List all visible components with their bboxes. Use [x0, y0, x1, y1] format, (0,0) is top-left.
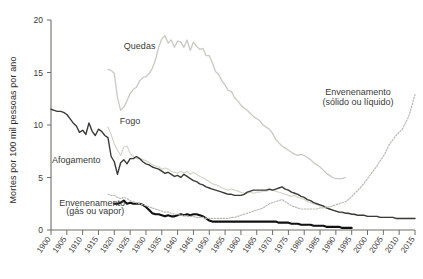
x-tick-label: 1990	[320, 235, 338, 255]
x-tick-label: 1940	[162, 235, 180, 255]
x-tick-label: 1980	[288, 235, 306, 255]
series-line-envenenamento-s-lido-ou-l-quido	[108, 95, 415, 219]
x-tick-label: 1945	[177, 235, 195, 255]
y-tick-label: 15	[34, 68, 44, 78]
chart-container: Mortes por 100 mil pessoas por ano 05101…	[0, 0, 423, 279]
x-tick-group: 1900190519101915192019251930193519401945…	[35, 230, 417, 255]
series-annotation-afogamento: Afogamento	[52, 155, 101, 165]
series-annotation-envenenamento-solido-2: (sólido ou líquido)	[323, 97, 394, 107]
x-tick-label: 1915	[83, 235, 101, 255]
x-tick-label: 1905	[51, 235, 69, 255]
y-tick-group: 05101520	[34, 15, 51, 235]
x-tick-label: 1910	[67, 235, 85, 255]
x-tick-label: 1960	[225, 235, 243, 255]
x-tick-label: 1950	[193, 235, 211, 255]
series-annotation-envenenamento-gas-2: (gás ou vapor)	[66, 206, 124, 216]
x-tick-label: 1930	[130, 235, 148, 255]
x-tick-label: 1935	[146, 235, 164, 255]
y-axis-title: Mortes por 100 mil pessoas por ano	[8, 57, 18, 204]
series-line-quedas	[108, 36, 345, 179]
y-tick-label: 20	[34, 15, 44, 25]
x-tick-label: 2005	[367, 235, 385, 255]
y-tick-label: 5	[38, 173, 43, 183]
series-line-fogo	[108, 127, 415, 218]
y-axis-label: Mortes por 100 mil pessoas por ano	[8, 57, 18, 204]
x-tick-label: 1970	[257, 235, 275, 255]
x-tick-label: 2000	[352, 235, 370, 255]
x-tick-label: 2015	[399, 235, 417, 255]
annotation-group: QuedasFogoAfogamentoEnvenenamento(gás ou…	[52, 41, 394, 216]
x-tick-label: 1955	[209, 235, 227, 255]
x-tick-label: 2010	[383, 235, 401, 255]
deaths-by-cause-line-chart: Mortes por 100 mil pessoas por ano 05101…	[0, 0, 423, 279]
x-tick-label: 1965	[241, 235, 259, 255]
series-annotation-fogo: Fogo	[120, 116, 141, 126]
x-tick-label: 1975	[272, 235, 290, 255]
x-tick-label: 1900	[35, 235, 53, 255]
x-tick-label: 1925	[114, 235, 132, 255]
y-tick-label: 10	[34, 120, 44, 130]
series-annotation-envenenamento-solido: Envenenamento	[325, 87, 391, 97]
series-annotation-quedas: Quedas	[124, 41, 156, 51]
y-tick-label: 0	[38, 225, 43, 235]
x-tick-label: 1920	[98, 235, 116, 255]
x-tick-label: 1995	[336, 235, 354, 255]
x-tick-label: 1985	[304, 235, 322, 255]
